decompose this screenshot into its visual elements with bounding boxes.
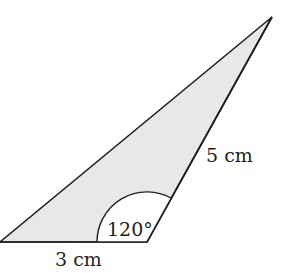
base-length-label: 3 cm: [55, 248, 102, 270]
triangle-diagram: 120° 3 cm 5 cm: [0, 0, 284, 273]
side-length-label: 5 cm: [206, 144, 253, 166]
angle-label: 120°: [107, 218, 153, 240]
